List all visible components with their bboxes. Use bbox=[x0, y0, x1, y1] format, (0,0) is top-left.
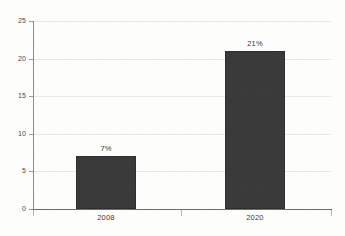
y-tick-25 bbox=[29, 21, 33, 22]
bar-2020[interactable] bbox=[225, 51, 285, 209]
y-tick-5 bbox=[29, 171, 33, 172]
y-tick-10 bbox=[29, 134, 33, 135]
gridline-10 bbox=[33, 134, 331, 135]
gridline-15 bbox=[33, 96, 331, 97]
y-axis-label-20: 20 bbox=[0, 55, 26, 62]
category-label-2020: 2020 bbox=[225, 213, 285, 222]
bar-value-label-2020: 21% bbox=[225, 39, 285, 48]
x-tick-middle bbox=[181, 210, 182, 216]
y-axis-label-0: 0 bbox=[0, 205, 26, 212]
x-tick-end bbox=[331, 210, 332, 216]
bar-value-label-2008: 7% bbox=[76, 144, 136, 153]
bar-2008[interactable] bbox=[76, 156, 136, 209]
category-label-2008: 2008 bbox=[76, 213, 136, 222]
y-axis-label-10: 10 bbox=[0, 130, 26, 137]
x-axis-line bbox=[33, 209, 332, 210]
y-axis-line bbox=[33, 21, 34, 210]
gridline-20 bbox=[33, 59, 331, 60]
y-axis-label-15: 15 bbox=[0, 92, 26, 99]
y-axis-label-5: 5 bbox=[0, 167, 26, 174]
y-tick-20 bbox=[29, 59, 33, 60]
x-tick-start bbox=[33, 210, 34, 216]
gridline-25 bbox=[33, 21, 331, 22]
bar-chart-screenshot: 25 20 15 10 5 0 7% 2008 21% 2020 bbox=[0, 0, 345, 236]
y-axis-label-25: 25 bbox=[0, 17, 26, 24]
y-tick-15 bbox=[29, 96, 33, 97]
